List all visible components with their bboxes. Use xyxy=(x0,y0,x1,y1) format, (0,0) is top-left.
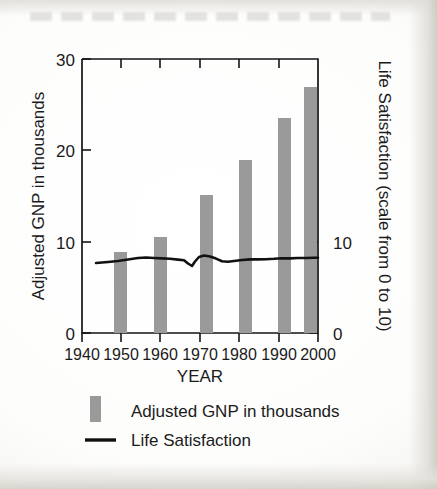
x-axis-top-ticks xyxy=(121,59,279,68)
y-axis-right-title: Life Satisfaction (scale from 0 to 10) xyxy=(375,60,394,331)
y-ticklabel-10: 10 xyxy=(56,234,75,253)
x-axis-tick-labels: 1940 1950 1960 1970 1980 1990 2000 xyxy=(64,346,336,363)
y-ticklabel-30: 30 xyxy=(56,51,75,70)
y-ticklabel-20: 20 xyxy=(56,142,75,161)
x-ticklabel-1960: 1960 xyxy=(142,346,178,363)
x-ticklabel-1980: 1980 xyxy=(221,346,257,363)
chart-figure: 30 20 10 0 10 0 1940 1950 1960 1970 1980… xyxy=(0,0,437,489)
legend-label-life-satisfaction: Life Satisfaction xyxy=(131,431,251,450)
x-axis-title: YEAR xyxy=(177,367,223,386)
x-axis-bottom-ticks xyxy=(82,333,318,342)
x-ticklabel-2000: 2000 xyxy=(300,346,336,363)
y-axis-left-ticks xyxy=(82,59,91,333)
y2-ticklabel-0: 0 xyxy=(333,325,342,344)
legend-swatch-bar xyxy=(90,396,101,422)
y-axis-right-tick-labels: 10 0 xyxy=(333,234,352,344)
y2-ticklabel-10: 10 xyxy=(333,234,352,253)
bar-1970[interactable] xyxy=(200,195,213,333)
y-axis-left-tick-labels: 30 20 10 0 xyxy=(56,51,75,344)
bar-2000[interactable] xyxy=(304,87,317,333)
bar-1950[interactable] xyxy=(114,252,127,333)
x-ticklabel-1940: 1940 xyxy=(64,346,100,363)
legend: Adjusted GNP in thousands Life Satisfact… xyxy=(85,396,340,450)
x-ticklabel-1990: 1990 xyxy=(261,346,297,363)
y-axis-left-title: Adjusted GNP in thousands xyxy=(29,92,48,301)
x-ticklabel-1950: 1950 xyxy=(103,346,139,363)
bar-1980[interactable] xyxy=(239,160,252,333)
bar-1990[interactable] xyxy=(278,118,291,333)
legend-label-adjusted-gnp: Adjusted GNP in thousands xyxy=(131,402,340,421)
x-ticklabel-1970: 1970 xyxy=(182,346,218,363)
bar-1960[interactable] xyxy=(154,237,167,333)
y-ticklabel-0: 0 xyxy=(66,325,75,344)
bar-series-adjusted-gnp xyxy=(114,87,317,333)
